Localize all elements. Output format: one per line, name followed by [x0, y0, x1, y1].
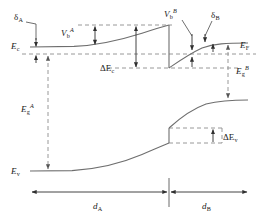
label-vb-a: VbA: [61, 26, 74, 39]
label-delta-ev: ΔEv: [223, 132, 239, 143]
label-d-a: dA: [93, 201, 103, 212]
band-curves: [30, 25, 248, 171]
delta-a-leader: [26, 22, 36, 40]
label-delta-a-sub: A: [19, 16, 24, 23]
label-ev: Ev: [10, 166, 21, 177]
delta-b-leader: [205, 21, 212, 36]
label-vb-a-sub: b: [67, 32, 70, 39]
label-delta-b-sub: B: [216, 14, 220, 21]
label-vb-a-sup: A: [69, 26, 74, 33]
conduction-band-region-a: [30, 25, 169, 47]
label-ef: EF: [239, 40, 250, 51]
label-delta-a: δA: [14, 12, 24, 23]
label-eg-b: EgB: [235, 64, 249, 77]
figure-labels: δA Ec VbA ΔEc VbB δB: [10, 7, 250, 212]
label-eg-a-sub: g: [27, 108, 30, 115]
label-eg-b-sup: B: [245, 64, 249, 71]
valence-band-region-a: [30, 143, 169, 171]
label-ec-sub: c: [17, 45, 20, 52]
label-vb-b-sub: b: [170, 13, 173, 20]
label-d-b-sub: B: [207, 205, 211, 212]
label-delta-ec-sub: c: [112, 67, 115, 74]
label-d-a-sub: A: [98, 205, 103, 212]
label-ec: Ec: [10, 41, 20, 52]
band-diagram-figure: δA Ec VbA ΔEc VbB δB: [0, 0, 276, 217]
label-delta-ec-base: ΔE: [100, 63, 112, 73]
band-diagram-svg: δA Ec VbA ΔEc VbB δB: [0, 0, 276, 217]
label-eg-a-sup: A: [29, 102, 34, 109]
label-eg-a: EgA: [20, 102, 34, 115]
conduction-band-region-b: [169, 43, 248, 68]
measure-arrows: [26, 20, 247, 192]
label-ef-sub: F: [246, 44, 250, 51]
label-eg-b-sub: g: [242, 70, 245, 77]
label-d-b: dB: [202, 201, 211, 212]
label-ev-sub: v: [17, 170, 21, 177]
label-vb-b-sup: B: [173, 7, 177, 14]
label-delta-ev-sub: v: [235, 136, 239, 143]
label-delta-ev-base: ΔE: [223, 132, 235, 142]
label-vb-b: VbB: [164, 7, 177, 20]
label-delta-b: δB: [211, 10, 220, 21]
guide-lines: [22, 25, 256, 143]
label-delta-ec: ΔEc: [100, 63, 115, 74]
vb-b-leader: [182, 20, 192, 36]
valence-band-region-b: [169, 100, 248, 128]
